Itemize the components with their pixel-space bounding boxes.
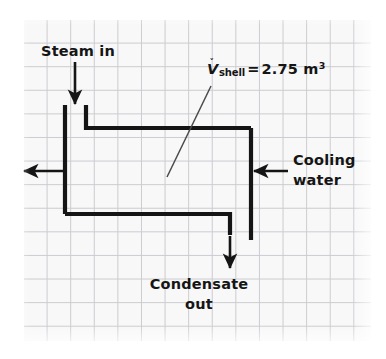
steam-in-label: Steam in [41, 43, 115, 59]
condensate-out-label-line2: out [150, 294, 249, 314]
volume-unit: m [303, 61, 318, 77]
volume-unit-exponent: 3 [319, 60, 326, 71]
shell-volume-annotation: V˅shell=2.75 m3 [207, 60, 325, 78]
cooling-water-label-line2: water [293, 170, 356, 190]
shell-bottom-wall [65, 214, 230, 235]
cooling-water-label-line1: Cooling [293, 150, 356, 170]
condensate-out-label: Condensate out [150, 274, 249, 314]
volume-equals-sign: = [245, 61, 261, 77]
condensate-out-label-line1: Condensate [150, 274, 249, 294]
figure-canvas: Steam in Cooling water Condensate out V˅… [0, 0, 386, 359]
volume-value: 2.75 [262, 61, 299, 77]
cooling-water-label: Cooling water [293, 150, 356, 190]
volume-subscript: shell [219, 67, 245, 78]
shell-top-wall [86, 105, 251, 128]
volume-symbol: V˅ [207, 61, 219, 77]
volume-symbol-accent-icon: ˅ [210, 58, 215, 67]
shell-outline [65, 105, 251, 240]
volume-leader-line [167, 86, 211, 177]
